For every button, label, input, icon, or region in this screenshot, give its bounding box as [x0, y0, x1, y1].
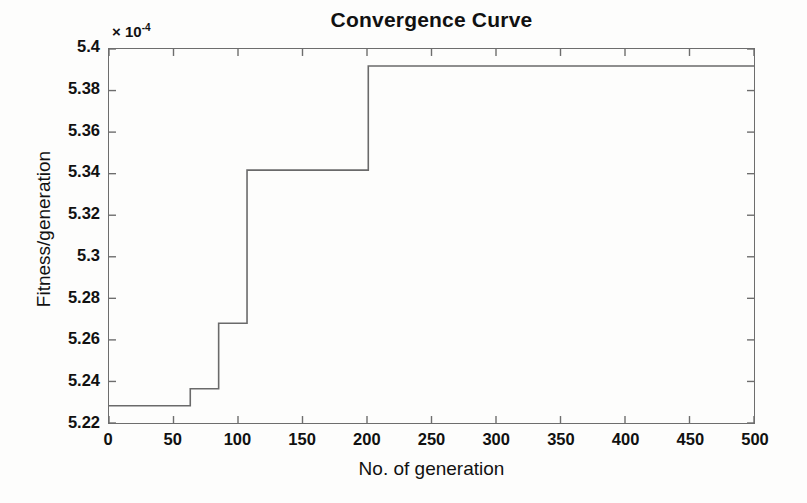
x-tick-label: 0	[73, 430, 143, 449]
x-tick-label: 300	[461, 430, 531, 449]
y-exponent-base: × 10	[112, 23, 142, 40]
convergence-curve-figure: Convergence Curve × 10-4 5.225.245.265.2…	[0, 0, 807, 503]
x-tick-label: 50	[138, 430, 208, 449]
convergence-line	[109, 66, 754, 406]
y-axis-tick-marks	[109, 49, 754, 423]
x-tick-label: 150	[267, 430, 337, 449]
x-axis-title: No. of generation	[108, 458, 755, 480]
y-tick-label: 5.4	[4, 37, 100, 56]
plot-canvas	[109, 49, 754, 423]
x-tick-label: 250	[397, 430, 467, 449]
x-axis-tick-marks	[109, 49, 754, 423]
x-tick-label: 450	[655, 430, 725, 449]
x-tick-label: 350	[526, 430, 596, 449]
plot-area	[108, 48, 755, 424]
chart-title: Convergence Curve	[108, 8, 755, 32]
x-tick-label: 500	[720, 430, 790, 449]
x-tick-label: 100	[202, 430, 272, 449]
y-tick-label: 5.24	[4, 371, 100, 390]
y-axis-exponent-multiplier: × 10-4	[112, 22, 151, 40]
x-tick-label: 400	[591, 430, 661, 449]
y-axis-title: Fitness/generation	[33, 89, 55, 369]
x-tick-label: 200	[332, 430, 402, 449]
y-exponent-power: -4	[142, 22, 151, 33]
